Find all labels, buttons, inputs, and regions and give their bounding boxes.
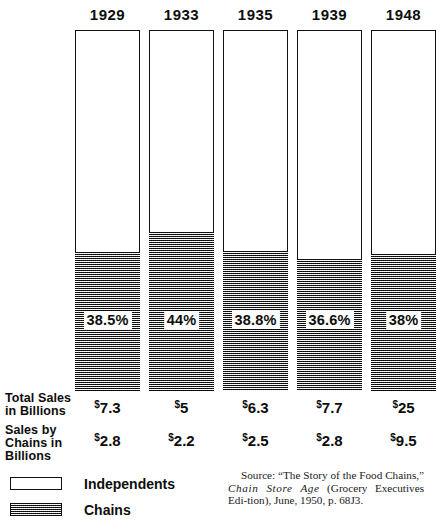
legend-swatch-hatched-icon — [10, 503, 62, 516]
total-sales-number-1939: 7.7 — [322, 399, 343, 416]
legend-label-independents: Independents — [84, 476, 175, 492]
total-sales-number-1948: 25 — [398, 399, 415, 416]
year-label-1929: 1929 — [75, 6, 140, 23]
row-caption-chain-sales: Sales by Chains in Billions — [5, 424, 75, 463]
chain-sales-value-1948: $9.5 — [371, 432, 436, 449]
pct-label-1929: 38.5% — [83, 311, 131, 329]
chain-sales-number-1933: 2.2 — [174, 432, 195, 449]
total-sales-number-1935: 6.3 — [248, 399, 269, 416]
chain-sales-number-1948: 9.5 — [396, 432, 417, 449]
chain-sales-number-1939: 2.8 — [322, 432, 343, 449]
bar-column-1948[interactable]: 1948 38% — [371, 30, 436, 391]
bar-column-1939[interactable]: 1939 36.6% — [297, 30, 362, 391]
legend-swatch-open-icon — [10, 477, 62, 490]
bar-column-1935[interactable]: 1935 38.8% — [223, 30, 288, 391]
bar-column-1929[interactable]: 1929 38.5% — [75, 30, 140, 391]
total-sales-value-1948: $25 — [371, 399, 436, 416]
total-sales-number-1929: 7.3 — [100, 399, 121, 416]
legend-item-chains[interactable]: Chains — [10, 500, 220, 519]
pct-label-1933: 44% — [164, 311, 200, 329]
total-sales-value-1929: $7.3 — [75, 399, 140, 416]
source-publication-title: Chain Store Age — [228, 482, 320, 494]
legend-label-chains: Chains — [84, 502, 131, 518]
row-caption-chain-sales-line3: Billions — [5, 450, 75, 463]
pct-label-1939: 36.6% — [305, 311, 353, 329]
legend-item-independents[interactable]: Independents — [10, 474, 220, 493]
year-label-1939: 1939 — [297, 6, 362, 23]
total-sales-value-1939: $7.7 — [297, 399, 362, 416]
total-sales-value-1933: $5 — [149, 399, 214, 416]
source-note: Source: “The Story of the Food Chains,” … — [228, 469, 424, 507]
chain-sales-value-1929: $2.8 — [75, 432, 140, 449]
chain-sales-value-1935: $2.5 — [223, 432, 288, 449]
row-caption-total-sales-line2: in Billions — [5, 405, 75, 418]
total-sales-number-1933: 5 — [180, 399, 188, 416]
chain-sales-number-1929: 2.8 — [100, 432, 121, 449]
bar-chart: 1929 38.5% 1933 44% 1935 38.8% 1939 36.6… — [0, 0, 427, 400]
bar-column-1933[interactable]: 1933 44% — [149, 30, 214, 391]
source-line-1: Source: “The Story of the Food Chains,” — [228, 469, 424, 481]
year-label-1935: 1935 — [223, 6, 288, 23]
chain-sales-value-1933: $2.2 — [149, 432, 214, 449]
year-label-1948: 1948 — [371, 6, 436, 23]
chain-sales-number-1935: 2.5 — [248, 432, 269, 449]
chart-legend: Independents Chains — [10, 474, 220, 520]
total-sales-value-1935: $6.3 — [223, 399, 288, 416]
year-label-1933: 1933 — [149, 6, 214, 23]
chain-sales-value-1939: $2.8 — [297, 432, 362, 449]
pct-label-1935: 38.8% — [231, 311, 279, 329]
pct-label-1948: 38% — [386, 311, 422, 329]
source-line-3: tion), June, 1950, p. 68J3. — [247, 494, 363, 506]
row-caption-total-sales: Total Sales in Billions — [5, 392, 75, 418]
